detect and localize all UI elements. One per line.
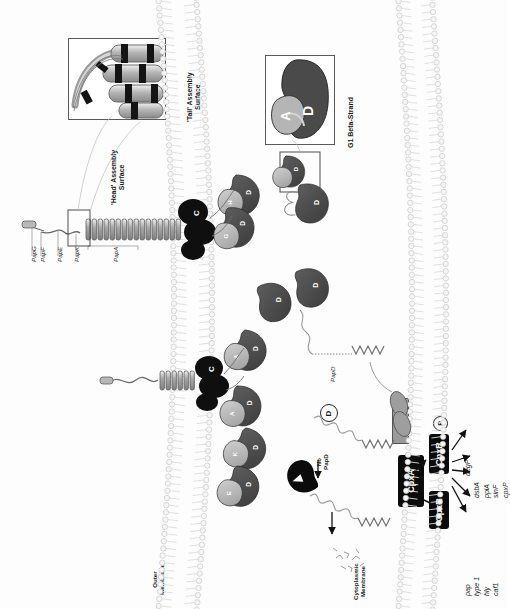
papd-label: PapD	[330, 367, 337, 382]
cpxr-label: CpxR	[434, 498, 444, 522]
gene-type1: type 1	[472, 577, 481, 596]
cyto-membrane-line2: Membrane	[360, 563, 367, 600]
head-label-line2: Surface	[118, 150, 126, 205]
svg-text:H: H	[227, 201, 233, 205]
svg-text:G: G	[223, 234, 229, 239]
label-pape: PapE	[57, 247, 64, 262]
gene-ppia: ppiA	[482, 460, 491, 498]
repressed-genes-list: pap type 1 hly caf1	[463, 577, 501, 596]
gene-cpxp: cpxP	[501, 460, 510, 498]
outer-membrane-line2: Membrane	[159, 564, 166, 595]
svg-text:D: D	[292, 166, 299, 171]
label-papk: PapK	[74, 247, 81, 262]
activated-genes-list: degP dsbA ppiA sinF cpxP	[463, 460, 510, 498]
cpxr-phospho-box: CpxR	[429, 434, 449, 474]
label-papg: PapG	[31, 246, 38, 262]
connector-usher-complex-b	[212, 216, 232, 236]
svg-text:D: D	[245, 482, 252, 487]
chaperone-with-nascent-chain: D	[293, 266, 384, 354]
svg-text:D: D	[246, 400, 253, 405]
gene-pap: pap	[463, 577, 472, 596]
svg-text:D: D	[245, 190, 252, 195]
gene-caf1: caf1	[491, 577, 500, 596]
chaperone-subunit-complex: D G	[211, 204, 257, 253]
svg-text:D: D	[275, 297, 282, 302]
svg-text:D: D	[312, 283, 319, 288]
cpxr-box: CpxR	[429, 491, 449, 529]
head-assembly-surface-label: 'Head' Assembly Surface	[110, 150, 126, 205]
g1-beta-strand-label: G1 Beta-Strand	[347, 97, 355, 148]
arrow-to-degp	[452, 430, 466, 450]
connector-usher-complex-d	[226, 376, 244, 390]
degp-protease-circle: D	[320, 404, 338, 422]
cpxr-phospho-label: CpxR	[434, 442, 444, 466]
phosphate-circle: P	[433, 416, 448, 431]
svg-text:D: D	[239, 221, 246, 226]
svg-text:A: A	[229, 411, 235, 416]
connector-usher-complex-a	[210, 190, 234, 218]
cooh-box: COOH	[392, 398, 409, 444]
unfolded-polypeptide-degraded	[310, 494, 390, 526]
g1-inset-graphic: A D	[266, 56, 334, 144]
label-papf: PapF	[40, 247, 47, 262]
tail-label-line2: Surface	[194, 72, 202, 122]
g1-beta-strand-inset: A D	[265, 55, 335, 145]
outer-membrane-label: Outer Membrane	[152, 564, 166, 595]
chaperone-subunit-complex: D A	[220, 325, 273, 380]
gene-hly: hly	[482, 577, 491, 596]
gene-sinf: sinF	[491, 460, 500, 498]
chaperone-folding-subunit: D	[284, 182, 330, 224]
cooh-label: COOH	[397, 410, 404, 433]
cpxa-label: CpxA	[406, 469, 416, 493]
chaperone-subunit-complex: D	[255, 280, 294, 324]
chaperone-subunit-boxed: D	[270, 140, 320, 193]
rod-inset-graphic	[69, 39, 165, 119]
svg-text:D: D	[252, 445, 259, 450]
gene-degp: degP	[463, 460, 472, 476]
phosphate-label: P	[437, 421, 444, 426]
svg-text:A: A	[233, 354, 239, 359]
no-papd-line2: PapD	[323, 454, 330, 470]
chaperone-subunit-complex: D E	[213, 461, 265, 515]
degp-circle-glyph: D	[325, 410, 334, 416]
cytoplasmic-membrane-label: Cytoplasmic Membrane	[353, 563, 367, 600]
chaperone-subunit-complex: D A	[216, 382, 266, 434]
tail-assembly-surface-label: 'Tail' Assembly Surface	[186, 72, 202, 122]
svg-text:A: A	[278, 111, 293, 121]
label-papa: PapA	[113, 247, 120, 262]
chaperone-subunit-complex: D H	[214, 170, 265, 223]
cpxa-sensor-box: CpxA	[398, 455, 424, 507]
svg-text:D: D	[252, 346, 259, 351]
gene-dsba: dsbA	[472, 460, 481, 498]
svg-text:E: E	[226, 491, 232, 495]
svg-text:D: D	[313, 200, 320, 205]
no-papd-label: No PapD	[316, 454, 330, 470]
svg-text:K: K	[232, 451, 238, 456]
tail-label-line1: 'Tail' Assembly	[186, 72, 194, 122]
chaperone-subunit-complex: D K	[218, 422, 272, 478]
connector-usher-complex-c	[224, 348, 244, 374]
pilus-rod-inset	[68, 38, 166, 120]
svg-text:D: D	[300, 106, 316, 116]
head-label-line1: 'Head' Assembly	[110, 150, 118, 205]
